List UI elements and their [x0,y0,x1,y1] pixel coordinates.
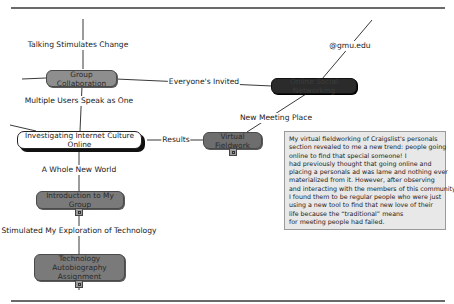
node-label: Introduction to My Group [37,191,123,209]
link-label-gmu-edu: @gmu.edu [328,41,371,51]
link-label-everyones-invited: Everyone's Invited [168,77,240,87]
node-label: Online Social Networking [272,77,356,95]
link-label-new-meeting-place: New Meeting Place [239,113,313,123]
node-online-social-networking[interactable]: Online Social Networking [271,78,357,94]
node-label: Group Collaboration [47,70,116,88]
note-attachment-icon[interactable] [229,148,237,156]
node-introduction[interactable]: Introduction to My Group [36,191,124,209]
note-line: had previously thought that going online… [289,160,441,168]
link-label-results: Results [161,135,190,145]
link-label-multiple-users: Multiple Users Speak as One [24,96,135,106]
note-line: section revealed to me a new trend: peop… [289,143,441,151]
central-topic-label: Investigating Internet Culture Online [18,131,141,149]
note-line: I found them to be regular people who we… [289,193,441,201]
note-attachment-icon[interactable] [75,208,83,216]
node-virtual-fieldwork[interactable]: Virtual Fieldwork [203,132,262,149]
node-label: Virtual Fieldwork [204,132,261,150]
note-line: online to find that special someone! I [289,152,441,160]
fieldwork-note: My virtual fieldworking of Craigslist's … [284,131,446,230]
note-attachment-icon[interactable] [75,280,83,288]
note-line: materialized from it. However, after obs… [289,176,441,184]
link-label-whole-new-world: A Whole New World [41,165,118,175]
note-line: life because the “traditional” means [289,210,441,218]
note-line: using a new tool to find that new love o… [289,201,441,209]
node-technology-autobiography[interactable]: Technology Autobiography Assignment [34,254,125,281]
link-label-stimulated-exploration: Stimulated My Exploration of Technology [0,226,157,236]
node-central-topic[interactable]: Investigating Internet Culture Online [17,131,142,149]
note-line: placing a personals ad was lame and noth… [289,168,441,176]
node-label-line1: Technology Autobiography [35,254,124,272]
link-label-talking-stimulates-change: Talking Stimulates Change [27,40,130,50]
note-line: for meeting people had failed. [289,218,441,226]
note-line: My virtual fieldworking of Craigslist's … [289,135,441,143]
note-line: and interacting with the members of this… [289,185,441,193]
node-group-collaboration[interactable]: Group Collaboration [46,70,117,87]
